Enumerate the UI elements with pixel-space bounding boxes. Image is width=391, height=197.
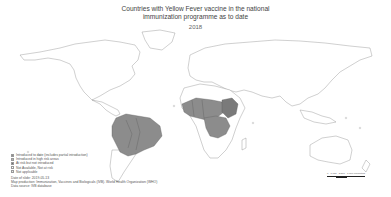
map-legend: Introduced to date (includes partial int… <box>11 153 88 174</box>
island-3 <box>173 105 175 107</box>
island-6 <box>359 127 361 129</box>
south-america-introduced <box>112 114 162 156</box>
legend-swatch <box>11 162 14 165</box>
legend-swatch <box>11 158 14 161</box>
legend-swatch <box>11 166 14 169</box>
data-source: Data source: IVB database <box>11 184 157 188</box>
southeast-asia <box>300 110 336 124</box>
map-notes: Date of slide: 2019-05-13 Map production… <box>11 176 157 189</box>
north-america <box>20 40 140 100</box>
new-zealand <box>362 160 370 172</box>
legend-label: Not applicable <box>16 170 38 174</box>
island-5 <box>345 117 347 119</box>
central-america <box>92 100 120 116</box>
scale-bar: 0 1,750 3,500 7,000 Kilometers <box>327 172 365 178</box>
island-4 <box>252 122 254 124</box>
scale-bar-graphic <box>327 176 365 178</box>
legend-swatch <box>11 170 14 173</box>
greenland <box>142 30 175 50</box>
legend-item-not-applicable: Not applicable <box>11 170 88 174</box>
madagascar <box>242 138 246 150</box>
australia <box>310 136 352 164</box>
legend-swatch <box>11 154 14 157</box>
